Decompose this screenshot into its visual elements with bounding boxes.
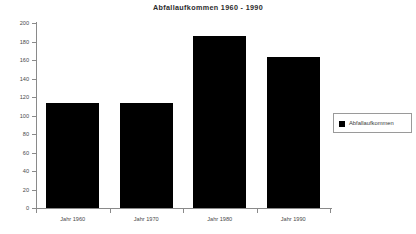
y-axis-tick [32, 171, 37, 172]
y-axis-tick [32, 190, 37, 191]
x-axis-tick-label: Jahr 1970 [110, 216, 184, 223]
y-axis-tick [32, 153, 37, 154]
bar [46, 103, 99, 208]
y-axis-tick [32, 116, 37, 117]
x-axis-tick-label: Jahr 1980 [183, 216, 257, 223]
y-axis-tick-label: 200 [5, 20, 29, 26]
y-axis-tick-label: 40 [5, 168, 29, 174]
x-axis-tick [36, 209, 37, 213]
y-axis-tick-label: 140 [5, 76, 29, 82]
bar [193, 36, 246, 208]
y-axis-tick-label: 80 [5, 131, 29, 137]
x-axis-tick [330, 209, 331, 213]
y-axis-tick [32, 79, 37, 80]
y-axis-tick-label: 0 [5, 205, 29, 211]
legend-item-label: Abfallaufkommen [349, 120, 394, 127]
y-axis-tick [32, 23, 37, 24]
x-axis-tick [257, 209, 258, 213]
chart-title: Abfallaufkommen 1960 - 1990 [0, 3, 416, 12]
y-axis-tick-label: 120 [5, 94, 29, 100]
x-axis-tick-label: Jahr 1990 [257, 216, 331, 223]
y-axis-tick [32, 60, 37, 61]
y-axis-tick-label: 160 [5, 57, 29, 63]
y-axis-tick [32, 42, 37, 43]
y-axis-tick-label: 100 [5, 113, 29, 119]
legend-item[interactable]: Abfallaufkommen [339, 120, 394, 127]
x-axis-tick-label: Jahr 1960 [36, 216, 110, 223]
x-axis-tick [110, 209, 111, 213]
x-axis-line [36, 208, 332, 209]
bar-chart: Abfallaufkommen 1960 - 1990 200180160140… [0, 0, 416, 234]
chart-legend: Abfallaufkommen [333, 113, 412, 133]
y-axis-tick-label: 60 [5, 150, 29, 156]
bar [267, 57, 320, 208]
bar [120, 103, 173, 208]
y-axis-tick-label: 20 [5, 187, 29, 193]
y-axis-tick-label: 180 [5, 39, 29, 45]
x-axis-tick [183, 209, 184, 213]
y-axis-tick [32, 97, 37, 98]
y-axis-tick [32, 134, 37, 135]
legend-swatch-icon [339, 121, 345, 127]
